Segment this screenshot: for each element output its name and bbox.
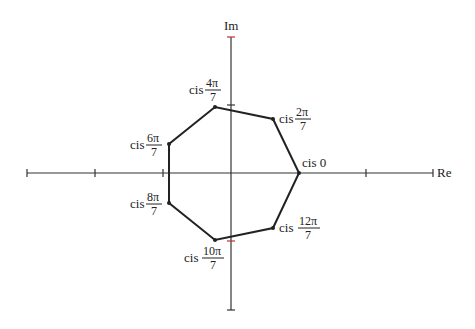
vertex-label-0: cis 0 bbox=[302, 155, 326, 170]
svg-text:cis: cis bbox=[279, 111, 293, 126]
im-axis-label: Im bbox=[224, 18, 238, 33]
svg-text:8π: 8π bbox=[147, 190, 159, 204]
svg-text:7: 7 bbox=[210, 90, 216, 104]
svg-text:2π: 2π bbox=[296, 105, 308, 119]
svg-text:cis: cis bbox=[189, 82, 203, 97]
svg-text:7: 7 bbox=[151, 204, 157, 218]
svg-text:cis: cis bbox=[279, 220, 293, 235]
svg-text:cis: cis bbox=[184, 250, 198, 265]
svg-text:7: 7 bbox=[210, 258, 216, 272]
vertex-label-2: cis 4π 7 bbox=[189, 76, 221, 104]
svg-text:cis: cis bbox=[130, 196, 144, 211]
axes bbox=[27, 37, 433, 310]
vertex-label-1: cis 2π 7 bbox=[279, 105, 311, 133]
svg-text:12π: 12π bbox=[299, 214, 317, 228]
vertex-label-4: cis 8π 7 bbox=[130, 190, 162, 218]
re-axis-label: Re bbox=[437, 165, 452, 180]
vertex-label-3: cis 6π 7 bbox=[130, 131, 162, 159]
svg-text:7: 7 bbox=[300, 119, 306, 133]
svg-text:6π: 6π bbox=[147, 131, 159, 145]
complex-plane-diagram: Re Im cis 0 cis 2π 7 cis 4π 7 cis 6π 7 c… bbox=[0, 0, 475, 329]
vertex-label-5: cis 10π 7 bbox=[184, 244, 224, 272]
svg-text:cis: cis bbox=[130, 137, 144, 152]
svg-text:10π: 10π bbox=[203, 244, 221, 258]
svg-text:7: 7 bbox=[305, 228, 311, 242]
svg-text:7: 7 bbox=[151, 145, 157, 159]
svg-text:4π: 4π bbox=[206, 76, 218, 90]
vertex-label-6: cis 12π 7 bbox=[279, 214, 320, 242]
